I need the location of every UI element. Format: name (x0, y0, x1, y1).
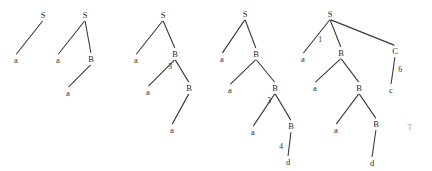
tree-node-label: B (272, 84, 278, 93)
tree-node-label: S (328, 10, 333, 19)
tree-node-label: a (170, 126, 174, 135)
tree-node-label: B (373, 120, 379, 129)
tree-node-label: a (56, 56, 60, 65)
tree-node-label: B (186, 84, 192, 93)
tree-node-label: S (41, 11, 46, 20)
tree-labels-layer: SaSaBaSaBaBa3SaBaBaBd34SaBCcaBaBd16 (0, 0, 432, 171)
tree-node-label: B (338, 49, 344, 58)
tree-node-label: S (243, 10, 248, 19)
tree-node-label: a (134, 56, 138, 65)
corner-marker-label: T (408, 124, 413, 132)
tree-node-label: a (66, 89, 70, 98)
tree-node-label: S (83, 11, 88, 20)
tree-node-label: a (251, 128, 255, 137)
tree-node-label: S (161, 11, 166, 20)
tree-node-label: a (301, 55, 305, 64)
tree-node-label: B (172, 50, 178, 59)
tree-edge-label: 3 (267, 97, 271, 105)
tree-node-label: a (228, 86, 232, 95)
tree-edge-label: 3 (168, 63, 172, 71)
tree-edge-label: 6 (398, 66, 402, 74)
tree-node-label: C (392, 47, 398, 56)
derivation-tree-figure: SaSaBaSaBaBa3SaBaBaBd34SaBCcaBaBd16 T (0, 0, 432, 171)
tree-node-label: B (356, 84, 362, 93)
tree-node-label: B (288, 122, 294, 131)
tree-node-label: a (313, 84, 317, 93)
tree-node-label: B (253, 50, 259, 59)
tree-node-label: a (220, 55, 224, 64)
tree-node-label: d (370, 159, 374, 168)
tree-edge-label: 1 (318, 36, 322, 44)
tree-node-label: c (389, 86, 393, 95)
tree-node-label: d (286, 158, 290, 167)
tree-node-label: a (334, 126, 338, 135)
tree-node-label: a (146, 88, 150, 97)
tree-edge-label: 4 (279, 143, 283, 151)
tree-node-label: B (88, 55, 94, 64)
tree-node-label: a (14, 56, 18, 65)
